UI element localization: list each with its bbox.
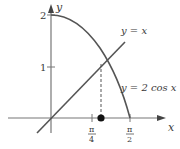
y-axis-arrow-icon: [48, 4, 54, 13]
x-axis-arrow-icon: [157, 115, 166, 121]
line-y-equals-x: [37, 42, 125, 133]
line-label: y = x: [120, 25, 147, 36]
x-tick-label-pi4-num: π: [89, 125, 94, 134]
curve-2cosx: [51, 15, 130, 118]
x-tick-label-pi2-den: 2: [127, 135, 132, 144]
point-dot: [97, 114, 104, 121]
y-tick-label-2: 2: [40, 10, 46, 21]
x-axis-label: x: [168, 121, 175, 134]
x-tick-label-pi2-num: π: [127, 125, 132, 134]
x-tick-label-pi4-den: 4: [89, 135, 94, 144]
y-tick-label-1: 1: [40, 62, 46, 73]
chart: y x 2 1 π 4 π 2 y = x y = 2 cos x: [0, 0, 180, 149]
curve-label: y = 2 cos x: [120, 82, 177, 93]
y-axis-label: y: [55, 1, 63, 14]
